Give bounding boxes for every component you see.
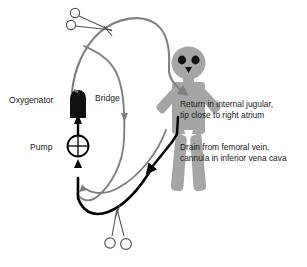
return-annotation-line1: Return in internal jugular, (180, 99, 273, 109)
diagram-canvas: Oxygenator Bridge Pump Return in interna… (0, 0, 307, 267)
clamp-top (66, 8, 112, 36)
ecmo-circuit-diagram: Oxygenator Bridge Pump Return in interna… (0, 0, 307, 267)
clamp-top-ring-upper (70, 8, 79, 17)
drain-to-pump-arrowhead (74, 159, 82, 168)
clamp-bottom-shank-right (117, 209, 124, 236)
oxygenator-body (70, 90, 86, 118)
venous-gray-path (86, 130, 166, 193)
clamp-bottom-shank-left (112, 209, 117, 236)
clamp-bottom-ring-left (105, 238, 115, 248)
bridge-arrowhead (121, 113, 128, 122)
clamp-bottom-ring-right (121, 239, 132, 250)
patient-head (172, 47, 206, 80)
clamp-top-ring-lower (66, 20, 75, 29)
patient-eye-right (191, 56, 199, 65)
bridge-path (77, 46, 124, 200)
oxygenator-device (70, 90, 86, 118)
patient-eye-left (178, 56, 186, 65)
drain-annotation-line1: Drain from femoral vein, (180, 142, 269, 152)
return-tube-path (72, 18, 186, 94)
drain-annotation-line2: cannula in inferior vena cava (180, 153, 287, 163)
bridge-tube (77, 46, 128, 200)
return-annotation-line2: tip close to right atrium (180, 110, 264, 120)
venous-gray-limb (86, 130, 166, 193)
return-tube (72, 18, 186, 94)
oxygenator-label: Oxygenator (9, 95, 54, 105)
pump-label: Pump (30, 142, 53, 152)
pump-device (68, 136, 89, 157)
bridge-label: Bridge (95, 93, 120, 103)
